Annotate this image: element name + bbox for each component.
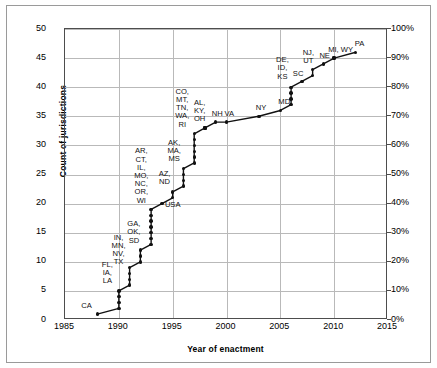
data-point xyxy=(128,283,131,286)
annotation-al-ky-oh: AL, KY, OH xyxy=(194,99,205,124)
annotation-va: VA xyxy=(225,110,235,118)
annotation-az-nd: AZ, ND xyxy=(159,170,171,186)
y-axis-left-tick-label: 20 xyxy=(6,198,46,207)
annotation-ca: CA xyxy=(81,302,92,310)
y-axis-left-tick-label: 30 xyxy=(6,140,46,149)
y-axis-right-tick-label: 80% xyxy=(391,82,435,91)
y-axis-left-tick-label: 45 xyxy=(6,53,46,62)
y-axis-left-tick-label: 5 xyxy=(6,285,46,294)
data-point xyxy=(289,91,292,94)
data-point xyxy=(139,254,142,257)
x-axis-title: Year of enactment xyxy=(64,344,387,354)
annotation-md: MD xyxy=(278,98,290,106)
y-axis-left-tick-label: 40 xyxy=(6,82,46,91)
data-point xyxy=(149,243,152,246)
annotation-ar-ct-il-mo-nc-or-wi: AR, CT, IL, MO, NC, OR, WI xyxy=(134,147,148,204)
annotation-ak-ma-ms: AK, MA, MS xyxy=(167,139,181,164)
annotation-pa: PA xyxy=(355,40,365,48)
data-point xyxy=(149,219,152,222)
x-axis-tick-label: 2015 xyxy=(365,322,409,331)
y-axis-left-tick-label: 25 xyxy=(6,169,46,178)
y-axis-left-tick-label: 35 xyxy=(6,111,46,120)
y-axis-right-tick-label: 20% xyxy=(391,256,435,265)
data-point xyxy=(203,126,206,129)
data-point xyxy=(332,56,335,59)
series-line xyxy=(65,29,388,320)
annotation-nh: NH xyxy=(212,110,223,118)
data-point xyxy=(149,225,152,228)
data-point xyxy=(193,144,196,147)
x-axis-tick-label: 2005 xyxy=(257,322,301,331)
y-axis-right-tick-label: 90% xyxy=(391,53,435,62)
data-point xyxy=(257,115,260,118)
x-axis-tick-label: 1990 xyxy=(96,322,140,331)
data-point xyxy=(300,80,303,83)
annotation-usa: USA xyxy=(165,201,181,209)
data-point xyxy=(149,237,152,240)
plot-area: CAFL, IA, LAIN, MN, NV, TXGA, OK, SDAR, … xyxy=(64,28,387,319)
data-point xyxy=(171,190,174,193)
data-point xyxy=(225,120,228,123)
data-point xyxy=(182,184,185,187)
y-axis-right-tick-label: 40% xyxy=(391,198,435,207)
data-point xyxy=(193,150,196,153)
y-axis-right-tick-label: 70% xyxy=(391,111,435,120)
y-axis-left-tick-label: 15 xyxy=(6,227,46,236)
annotation-ny: NY xyxy=(256,104,267,112)
data-point xyxy=(182,179,185,182)
data-point xyxy=(289,86,292,89)
annotation-nj-ut: NJ, UT xyxy=(303,49,314,65)
data-point xyxy=(160,202,163,205)
y-axis-left-tick-label: 0 xyxy=(6,315,46,324)
data-point xyxy=(117,301,120,304)
data-point xyxy=(117,295,120,298)
data-point xyxy=(139,248,142,251)
annotation-de-id-ks: DE, ID, KS xyxy=(276,56,289,81)
data-point xyxy=(193,161,196,164)
data-point xyxy=(96,312,99,315)
figure-frame: Count of jurisdictions Cumulative propor… xyxy=(6,5,431,363)
x-axis-tick-label: 1985 xyxy=(42,322,86,331)
y-axis-right-tick-label: 60% xyxy=(391,140,435,149)
annotation-in-mn-nv-tx: IN, MN, NV, TX xyxy=(112,234,126,267)
data-point xyxy=(117,307,120,310)
data-point xyxy=(193,155,196,158)
data-point xyxy=(149,208,152,211)
annotation-mi-wy: MI, WY xyxy=(328,46,353,54)
y-axis-left-tick-label: 50 xyxy=(6,24,46,33)
x-axis-tick-label: 2010 xyxy=(311,322,355,331)
data-point xyxy=(322,62,325,65)
y-axis-right-tick-label: 50% xyxy=(391,169,435,178)
data-point xyxy=(117,289,120,292)
annotation-sc: SC xyxy=(293,70,304,78)
y-axis-right-tick-label: 100% xyxy=(391,24,435,33)
x-axis-tick-label: 2000 xyxy=(204,322,248,331)
annotation-ga-ok-sd: GA, OK, SD xyxy=(127,220,140,245)
data-point xyxy=(139,260,142,263)
data-point xyxy=(149,214,152,217)
y-axis-right-tick-label: 30% xyxy=(391,227,435,236)
annotation-co-mt-tn-wa-ri: CO, MT, TN, WA, RI xyxy=(175,88,189,129)
x-axis-tick-label: 1995 xyxy=(150,322,194,331)
chart-figure: Count of jurisdictions Cumulative propor… xyxy=(0,0,437,368)
y-axis-right-tick-label: 10% xyxy=(391,285,435,294)
y-axis-left-tick-label: 10 xyxy=(6,256,46,265)
